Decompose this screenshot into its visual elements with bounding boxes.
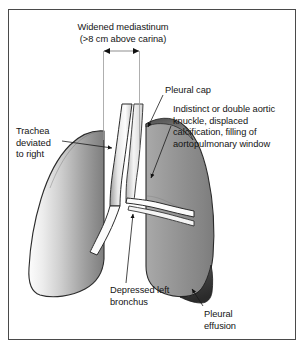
label-trachea-deviated: Tracheadeviatedto right [16, 126, 51, 161]
label-pleural-effusion: Pleuraleffusion [204, 309, 236, 332]
label-depressed-bronchus: Depressed leftbronchus [110, 285, 169, 308]
label-aortic-knuckle: Indistinct or double aorticknuckle, disp… [173, 104, 275, 150]
leader-depressed-bronchus [126, 214, 133, 283]
label-trachea-line3: to right [16, 149, 44, 159]
label-trachea-line2: deviated [16, 138, 51, 148]
label-depressed-bronchus-line2: bronchus [110, 297, 148, 307]
label-widened-mediastinum-line2: (>8 cm above carina) [80, 34, 167, 44]
label-pleural-effusion-line1: Pleural [204, 309, 233, 319]
label-aortic-knuckle-line4: aortopulmonary window [173, 139, 270, 149]
label-depressed-bronchus-line1: Depressed left [110, 285, 169, 295]
trachea-airway [110, 104, 143, 206]
figure-root: Widened mediastinum(>8 cm above carina) … [0, 0, 308, 352]
label-widened-mediastinum-line1: Widened mediastinum [77, 22, 168, 32]
label-pleural-cap: Pleural cap [165, 85, 211, 97]
label-trachea-line1: Trachea [16, 126, 49, 136]
label-widened-mediastinum: Widened mediastinum(>8 cm above carina) [68, 22, 178, 45]
label-aortic-knuckle-line3: calcification, filling of [173, 127, 257, 137]
label-aortic-knuckle-line1: Indistinct or double aortic [173, 104, 275, 114]
label-aortic-knuckle-line2: knuckle, displaced [173, 116, 248, 126]
label-pleural-effusion-line2: effusion [204, 321, 236, 331]
